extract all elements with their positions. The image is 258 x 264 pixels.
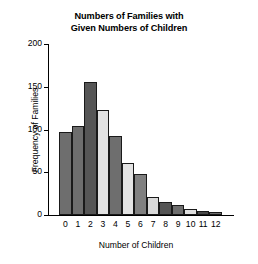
x-axis-tick-label: 2 bbox=[84, 219, 97, 229]
bar bbox=[134, 174, 147, 215]
y-axis-tick-label: 100 bbox=[28, 124, 42, 134]
bar bbox=[159, 202, 172, 215]
plot-area: 050100150200 0123456789101112 bbox=[48, 40, 238, 220]
x-axis-tick-label: 12 bbox=[209, 219, 222, 229]
x-axis-tick-label: 8 bbox=[159, 219, 172, 229]
x-axis-tick-label: 1 bbox=[72, 219, 85, 229]
bar bbox=[109, 136, 122, 216]
y-axis-tick-label: 50 bbox=[32, 166, 42, 176]
bar-series bbox=[59, 40, 222, 215]
y-axis-tick: 100 bbox=[44, 130, 48, 131]
x-axis-line bbox=[48, 215, 234, 216]
bar bbox=[197, 211, 210, 215]
bar bbox=[172, 205, 185, 215]
x-axis-tick-label: 7 bbox=[147, 219, 160, 229]
x-axis-tick-label: 3 bbox=[97, 219, 110, 229]
chart-title-line-1: Numbers of Families with bbox=[0, 11, 258, 23]
y-axis-tick: 50 bbox=[44, 172, 48, 173]
x-axis-tick-label: 11 bbox=[197, 219, 210, 229]
x-axis-tick-label: 6 bbox=[134, 219, 147, 229]
y-axis-tick-label: 150 bbox=[28, 81, 42, 91]
y-axis-tick: 150 bbox=[44, 87, 48, 88]
chart-figure: Numbers of Families with Given Numbers o… bbox=[0, 0, 258, 264]
y-axis-tick-label: 200 bbox=[28, 38, 42, 48]
bar bbox=[97, 110, 110, 215]
y-axis-tick: 200 bbox=[44, 44, 48, 45]
chart-title: Numbers of Families with Given Numbers o… bbox=[0, 11, 258, 34]
bar bbox=[72, 126, 85, 215]
bar bbox=[84, 82, 97, 215]
chart-title-line-2: Given Numbers of Children bbox=[0, 23, 258, 35]
x-axis-tick-label: 10 bbox=[184, 219, 197, 229]
y-axis-tick: 0 bbox=[44, 215, 48, 216]
x-axis-tick-label: 9 bbox=[172, 219, 185, 229]
x-axis-tick-label: 5 bbox=[122, 219, 135, 229]
bar bbox=[184, 209, 197, 215]
bar bbox=[209, 212, 222, 215]
x-axis-tick-label: 0 bbox=[59, 219, 72, 229]
x-axis-tick-label: 4 bbox=[109, 219, 122, 229]
y-axis-tick-label: 0 bbox=[37, 209, 42, 219]
x-axis-label: Number of Children bbox=[44, 240, 228, 250]
bar bbox=[59, 132, 72, 215]
bar bbox=[147, 197, 160, 215]
bar bbox=[122, 163, 135, 215]
y-axis-line bbox=[48, 44, 49, 216]
